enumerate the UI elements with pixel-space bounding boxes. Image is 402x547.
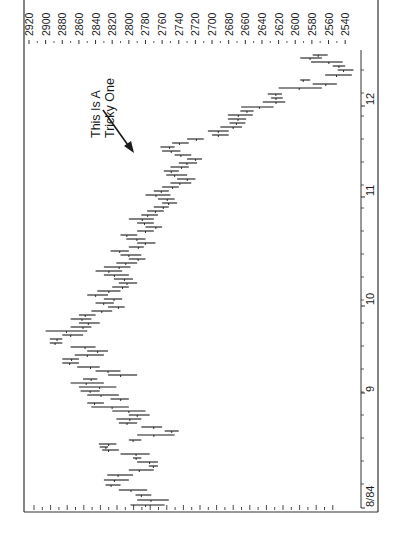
price-tick-label: 2720: [189, 12, 201, 36]
price-tick-label: 2740: [173, 12, 185, 36]
annotation-line-1: This Is A: [89, 89, 103, 138]
price-tick-label: 2680: [223, 12, 235, 36]
price-tick-label: 2760: [156, 12, 168, 36]
price-tick-label: 2840: [90, 12, 102, 36]
price-tick-label: 2700: [206, 12, 218, 36]
rotated-price-chart: 2920290028802860284028202800278027602740…: [0, 0, 402, 547]
price-tick-label: 2640: [256, 12, 268, 36]
time-tick-label: 10: [364, 293, 376, 305]
price-axis: 2920290028802860284028202800278027602740…: [23, 12, 351, 44]
annotation: This Is A Tricky One: [89, 78, 134, 153]
price-tick-label: 2880: [56, 12, 68, 36]
price-tick-label: 2560: [323, 12, 335, 36]
bottom-tick-marks: [34, 505, 333, 510]
time-axis: 8/849101112: [361, 70, 376, 508]
price-tick-label: 2620: [273, 12, 285, 36]
price-tick-label: 2820: [106, 12, 118, 36]
price-tick-label: 2580: [306, 12, 318, 36]
annotation-line-2: Tricky One: [103, 78, 117, 138]
price-tick-label: 2780: [139, 12, 151, 36]
price-tick-label: 2660: [239, 12, 251, 36]
price-tick-label: 2900: [40, 12, 52, 36]
price-tick-label: 2540: [339, 12, 351, 36]
time-tick-label: 9: [364, 386, 376, 392]
chart-frame: [24, 0, 378, 512]
price-tick-label: 2860: [73, 12, 85, 36]
time-tick-label: 11: [364, 185, 376, 196]
price-tick-label: 2800: [123, 12, 135, 36]
price-tick-label: 2600: [289, 12, 301, 36]
time-tick-label: 8/84: [364, 486, 376, 507]
price-tick-label: 2920: [23, 12, 35, 36]
time-tick-label: 12: [364, 93, 376, 105]
